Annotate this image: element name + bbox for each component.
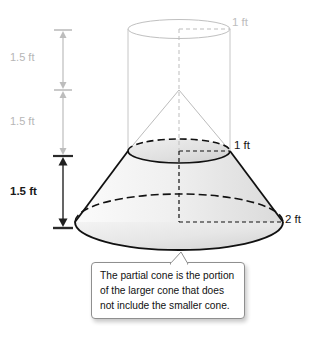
callout-box: The partial cone is the portion of the l… — [91, 262, 245, 319]
arrowhead-down-2 — [60, 148, 67, 155]
callout-line-3: not include the smaller cone. — [100, 298, 240, 313]
arrowhead-up-3 — [59, 157, 68, 166]
callout-pointer — [168, 252, 190, 265]
dimension-label-middle: 1.5 ft — [10, 115, 34, 127]
arrowhead-down-1 — [60, 82, 67, 89]
dimension-label-bottom: 1.5 ft — [10, 185, 37, 197]
callout-line-1: The partial cone is the portion — [100, 268, 240, 283]
callout-line-2: of the larger cone that does — [100, 283, 240, 298]
large-base-front-fill — [75, 222, 283, 250]
radius-label-cylinder-top: 1 ft — [232, 16, 248, 28]
callout-text: The partial cone is the portion of the l… — [100, 268, 240, 313]
arrowhead-up-1 — [60, 31, 67, 38]
radius-label-small-cone-base: 1 ft — [234, 139, 250, 151]
dimension-ruler — [53, 30, 73, 228]
arrowhead-up-2 — [60, 91, 67, 98]
arrowhead-down-3 — [59, 219, 68, 228]
dimension-label-top: 1.5 ft — [10, 51, 34, 63]
figure-container: 1.5 ft 1.5 ft 1.5 ft 1 ft 1 ft 2 ft The … — [0, 0, 313, 338]
radius-label-large-cone-base: 2 ft — [285, 213, 301, 225]
